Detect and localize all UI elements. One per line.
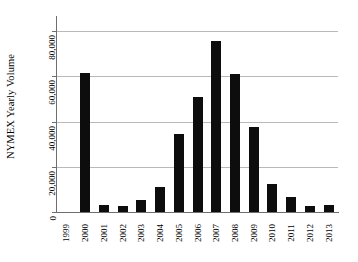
- x-axis-tick-label: 2007: [210, 214, 222, 260]
- x-axis-tick-label-text: 2001: [99, 224, 109, 242]
- y-axis-tick-mark: [52, 76, 57, 77]
- bar: [286, 197, 296, 212]
- x-axis-tick-label-text: 2011: [286, 224, 296, 242]
- bar: [80, 73, 90, 212]
- bar: [174, 134, 184, 212]
- y-axis-tick-mark: [52, 167, 57, 168]
- x-axis-tick-label: 2000: [79, 214, 91, 260]
- x-axis-tick-label: 1999: [60, 214, 72, 260]
- x-axis-tick-label: 2013: [323, 214, 335, 260]
- y-axis-tick-label: 20,000: [18, 161, 52, 173]
- x-axis-tick-label-text: 2009: [249, 224, 259, 242]
- bar: [324, 205, 334, 212]
- x-axis-tick-label: 2008: [229, 214, 241, 260]
- x-axis-tick-label-text: 2013: [324, 224, 334, 242]
- y-axis-tick-label: 80,000: [18, 25, 52, 37]
- bar: [211, 41, 221, 212]
- x-axis-tick-label: 2004: [154, 214, 166, 260]
- x-axis-tick-label-text: 2007: [211, 224, 221, 242]
- bar: [155, 187, 165, 212]
- bar: [230, 74, 240, 212]
- x-axis-tick-label-text: 2003: [136, 224, 146, 242]
- bar: [267, 184, 277, 212]
- x-axis-tick-label: 2005: [173, 214, 185, 260]
- y-axis-tick-mark: [52, 212, 57, 213]
- y-axis-tick-label: 0: [18, 206, 52, 218]
- x-axis-tick-label-text: 1999: [61, 224, 71, 242]
- bar: [136, 200, 146, 212]
- x-axis-tick-label-text: 2010: [267, 224, 277, 242]
- x-axis-tick-label-text: 2005: [174, 224, 184, 242]
- bar-series: [57, 22, 338, 212]
- bar: [118, 206, 128, 212]
- bar: [249, 127, 259, 212]
- x-axis-tick-label-text: 2008: [230, 224, 240, 242]
- y-axis-tick-label: 60,000: [18, 70, 52, 82]
- plot-area: [57, 22, 338, 212]
- x-axis-tick-labels: 1999200020012002200320042005200620072008…: [57, 214, 338, 262]
- y-axis-tick-label: 40,000: [18, 116, 52, 128]
- x-axis-line: [56, 212, 339, 213]
- y-axis-title-label: NYMEX Yearly Volume: [6, 53, 17, 158]
- x-axis-tick-label: 2002: [117, 214, 129, 260]
- bar: [305, 206, 315, 212]
- x-axis-tick-label: 2012: [304, 214, 316, 260]
- bar: [99, 205, 109, 212]
- x-axis-tick-label: 2010: [266, 214, 278, 260]
- y-axis-tick-labels: 020,00040,00060,00080,000: [20, 0, 54, 262]
- x-axis-tick-label: 2003: [135, 214, 147, 260]
- x-axis-tick-label: 2001: [98, 214, 110, 260]
- x-axis-tick-label-text: 2012: [305, 224, 315, 242]
- y-axis-tick-mark: [52, 122, 57, 123]
- x-axis-tick-label: 2011: [285, 214, 297, 260]
- x-axis-tick-label: 2009: [248, 214, 260, 260]
- y-axis-tick-mark: [52, 31, 57, 32]
- x-axis-tick-label-text: 2002: [118, 224, 128, 242]
- x-axis-tick-label-text: 2006: [193, 224, 203, 242]
- x-axis-tick-label: 2006: [192, 214, 204, 260]
- bar-chart: NYMEX Yearly Volume 020,00040,00060,0008…: [0, 0, 358, 262]
- x-axis-tick-label-text: 2000: [80, 224, 90, 242]
- bar: [193, 97, 203, 212]
- x-axis-tick-label-text: 2004: [155, 224, 165, 242]
